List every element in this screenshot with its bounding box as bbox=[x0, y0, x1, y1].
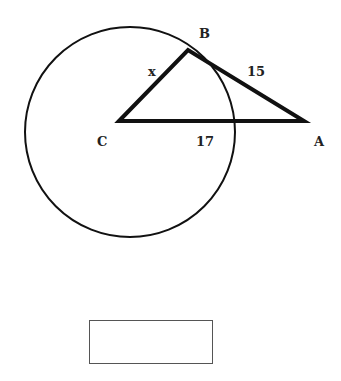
point-label-a: A bbox=[313, 134, 325, 149]
answer-input-box[interactable] bbox=[89, 320, 213, 364]
point-label-b: B bbox=[199, 26, 210, 41]
segment-label-ca: 17 bbox=[196, 134, 214, 149]
segment-label-cb: x bbox=[148, 64, 156, 79]
point-label-c: C bbox=[97, 134, 107, 149]
triangle-abc bbox=[119, 50, 304, 121]
segment-label-ba: 15 bbox=[247, 64, 265, 79]
